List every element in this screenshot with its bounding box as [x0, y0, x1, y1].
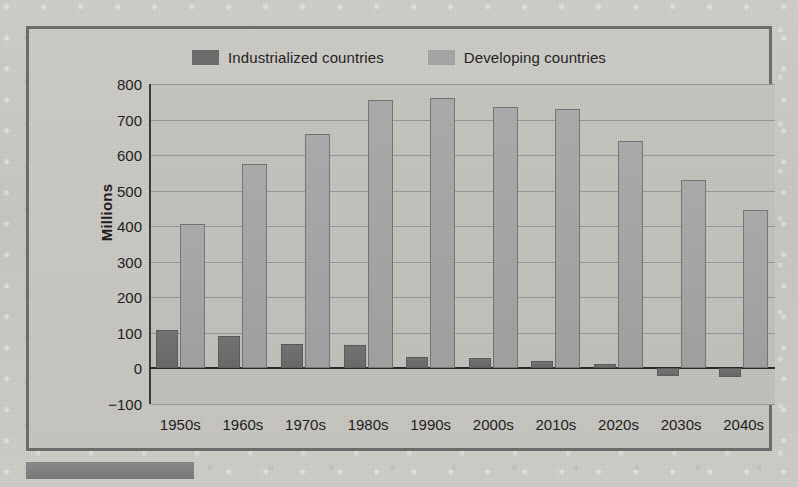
y-axis-tick-label: −100 [108, 396, 142, 413]
x-axis-tick-label: 1970s [274, 416, 337, 433]
y-axis-tick-label: 300 [117, 253, 142, 270]
gridline [151, 404, 775, 405]
x-axis-tick-label: 2000s [462, 416, 525, 433]
figure-frame: Industrialized countries Developing coun… [26, 26, 772, 451]
bar-2010s-developing [555, 109, 580, 369]
y-axis-tick-label: 0 [134, 360, 142, 377]
bar-1970s-developing [305, 134, 330, 369]
y-axis-tick-label: 600 [117, 147, 142, 164]
bar-2040s-developing [743, 210, 768, 368]
bar-1980s-industrialized [344, 345, 366, 368]
y-axis-tick-label: 200 [117, 289, 142, 306]
bar-1990s-industrialized [406, 357, 428, 369]
legend-entry-industrialized: Industrialized countries [192, 49, 384, 66]
bar-2040s-industrialized [719, 368, 741, 376]
legend-label-developing: Developing countries [464, 49, 606, 66]
chart-legend: Industrialized countries Developing coun… [29, 49, 769, 66]
y-axis-tick-label: 800 [117, 76, 142, 93]
bars-layer [149, 84, 775, 404]
y-axis-tick-label: 100 [117, 324, 142, 341]
bar-2030s-developing [681, 180, 706, 368]
legend-entry-developing: Developing countries [428, 49, 606, 66]
x-axis-tick-label: 2040s [712, 416, 775, 433]
plot-wrapper: Millions 8007006005004003002001000−100 1… [118, 84, 775, 441]
bar-1970s-industrialized [281, 344, 303, 369]
x-axis-tick-label: 1950s [149, 416, 212, 433]
y-axis-title: Millions [98, 153, 115, 273]
bar-2000s-industrialized [469, 358, 491, 368]
y-axis-tick-label: 700 [117, 111, 142, 128]
bar-1990s-developing [430, 98, 455, 368]
legend-swatch-developing [428, 50, 455, 65]
bar-1980s-developing [368, 100, 393, 368]
bar-2020s-developing [618, 141, 643, 369]
bar-2010s-industrialized [531, 361, 553, 369]
y-axis-tick-label: 500 [117, 182, 142, 199]
x-axis-tick-label: 2030s [650, 416, 713, 433]
legend-swatch-industrialized [192, 50, 219, 65]
x-axis-tick-label: 2010s [525, 416, 588, 433]
bar-1950s-developing [180, 224, 205, 368]
legend-label-industrialized: Industrialized countries [228, 49, 384, 66]
x-axis-tick-label: 1990s [399, 416, 462, 433]
bar-1960s-industrialized [218, 336, 240, 369]
x-axis-tick-label: 1980s [337, 416, 400, 433]
bar-2020s-industrialized [594, 364, 616, 368]
caption-block [26, 462, 194, 479]
bar-2030s-industrialized [657, 368, 679, 376]
y-axis-tick-label: 400 [117, 218, 142, 235]
bar-1950s-industrialized [156, 330, 178, 368]
x-axis-tick-label: 1960s [212, 416, 275, 433]
x-axis-tick-labels: 1950s1960s1970s1980s1990s2000s2010s2020s… [149, 416, 775, 440]
x-axis-tick-label: 2020s [587, 416, 650, 433]
bar-1960s-developing [242, 164, 267, 368]
bar-2000s-developing [493, 107, 518, 368]
